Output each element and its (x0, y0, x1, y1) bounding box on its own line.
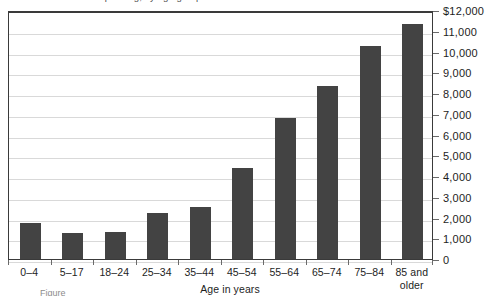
bar (62, 233, 83, 259)
x-axis-tick-label: 0–4 (5, 266, 53, 279)
x-axis-tick (8, 260, 9, 265)
x-axis-tick (391, 260, 392, 265)
y-axis-tick (433, 94, 439, 95)
y-axis-tick-label: 9,000 (443, 68, 472, 79)
bar (317, 86, 338, 259)
y-axis-tick-label: 5,000 (443, 151, 472, 162)
x-axis-tick-label: 45–54 (218, 266, 266, 279)
y-axis-tick-label: 2,000 (443, 214, 472, 225)
y-axis-tick (433, 73, 439, 74)
x-axis-tick-label: 65–74 (303, 266, 351, 279)
bar (20, 223, 41, 259)
x-axis-ticks (8, 260, 433, 265)
y-axis-tick-label: 10,000 (443, 48, 478, 59)
bar (147, 213, 168, 259)
x-axis-tick (51, 260, 52, 265)
x-axis-tick (93, 260, 94, 265)
x-axis-tick (136, 260, 137, 265)
x-axis-tick-label: 35–44 (175, 266, 223, 279)
y-axis-tick (433, 198, 439, 199)
y-axis-tick (433, 115, 439, 116)
y-axis-ticks (433, 11, 439, 260)
bar-series (9, 13, 432, 259)
y-axis-tick (433, 239, 439, 240)
bar (105, 232, 126, 259)
bar (275, 118, 296, 259)
x-axis-tick-label: 25–34 (133, 266, 181, 279)
x-axis-tick (348, 260, 349, 265)
y-axis-tick (433, 219, 439, 220)
x-axis-tick (432, 260, 433, 265)
y-axis-tick-label: 1,000 (443, 234, 472, 245)
y-axis-tick (433, 11, 439, 12)
y-axis-tick-label: $12,000 (443, 6, 484, 17)
y-axis-labels: $12,00011,00010,0009,0008,0007,0006,0005… (443, 11, 492, 260)
y-axis-tick-label: 7,000 (443, 110, 472, 121)
y-axis-tick (433, 32, 439, 33)
x-axis-tick-label: 85 and older (388, 266, 436, 291)
y-axis-tick (433, 156, 439, 157)
x-axis-tick-label: 55–64 (260, 266, 308, 279)
x-axis-tick (221, 260, 222, 265)
y-axis-tick (433, 136, 439, 137)
y-axis-tick (433, 53, 439, 54)
bar (232, 168, 253, 259)
y-axis-tick-label: 8,000 (443, 89, 472, 100)
plot-area (8, 11, 433, 260)
y-axis-tick-label: 3,000 (443, 193, 472, 204)
y-axis-tick-label: 4,000 (443, 172, 472, 183)
y-axis-tick (433, 260, 439, 261)
x-axis-tick-label: 5–17 (48, 266, 96, 279)
bar (360, 46, 381, 259)
figure-container: Personal health care spending, by age gr… (0, 0, 492, 296)
x-axis-title: Age in years (170, 283, 290, 295)
x-axis-tick-label: 18–24 (90, 266, 138, 279)
x-axis-tick-label: 75–84 (345, 266, 393, 279)
y-axis-tick (433, 177, 439, 178)
x-axis-tick (306, 260, 307, 265)
y-axis-tick-label: 0 (443, 255, 449, 266)
x-axis-tick (178, 260, 179, 265)
y-axis-tick-label: 11,000 (443, 27, 477, 38)
x-axis-tick (263, 260, 264, 265)
figure-caption-truncated: Figure (40, 288, 160, 296)
bar (190, 207, 211, 259)
y-axis-tick-label: 6,000 (443, 131, 472, 142)
figure-title-truncated: Personal health care spending, by age gr… (8, 0, 308, 3)
bar (402, 24, 423, 260)
